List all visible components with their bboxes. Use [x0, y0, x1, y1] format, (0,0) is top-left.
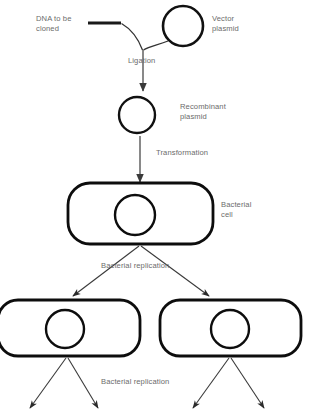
label-bacterial-replication-first: Bacterial replication [101, 261, 169, 271]
ligation-joint-right-arm [144, 41, 169, 50]
replication-2-arrow-left-inner [68, 358, 98, 408]
daughter-cell-right-nucleus [211, 310, 249, 348]
replication-1-arrow-right [141, 246, 209, 296]
label-ligation: Ligation [128, 56, 155, 66]
label-bacterial-cell: Bacterial cell [221, 200, 251, 219]
cloning-diagram: DNA to be cloned Vector plasmid Ligation… [0, 0, 311, 417]
diagram-canvas [0, 0, 311, 417]
replication-2-arrow-left-outer [30, 358, 66, 408]
label-bacterial-replication-second: Bacterial replication [101, 377, 169, 387]
ligation-joint-left-arm [122, 24, 143, 51]
recombinant-plasmid-circle [119, 97, 155, 133]
replication-2-arrow-right-outer [231, 358, 264, 408]
replication-1-arrow-left [73, 246, 139, 296]
label-vector-plasmid: Vector plasmid [212, 14, 239, 33]
replication-2-arrow-right-inner [193, 358, 229, 408]
label-recombinant-plasmid: Recombinant plasmid [180, 102, 226, 121]
label-dna-to-be-cloned: DNA to be cloned [36, 14, 72, 33]
vector-plasmid-circle [163, 6, 203, 46]
daughter-cell-left-nucleus [46, 310, 84, 348]
label-transformation: Transformation [156, 148, 208, 158]
bacterial-cell-nucleus [115, 195, 155, 235]
